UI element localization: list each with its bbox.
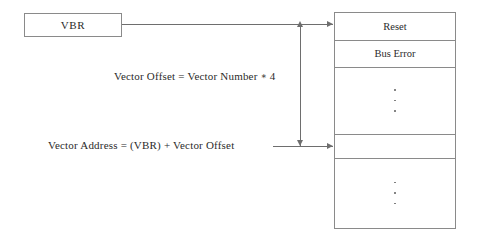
ellipsis-dot-icon — [394, 89, 396, 91]
vector-table-cell-label: Reset — [383, 21, 406, 32]
address-to-table-arrowhead-icon — [327, 143, 333, 149]
vector-offset-equation-text: Vector Offset = Vector Number — [114, 70, 258, 82]
vector-table-row-ellipsis-lower — [335, 158, 455, 228]
ellipsis-dot-icon — [394, 110, 396, 112]
multiply-operator-icon: ∗ — [261, 71, 267, 81]
ellipsis-dot-icon — [394, 100, 396, 102]
offset-span-vertical-line — [300, 24, 301, 146]
vector-table-row-ellipsis-upper — [335, 67, 455, 134]
vector-table-row-bus-error: Bus Error — [335, 40, 455, 67]
vector-table-row-reset: Reset — [335, 13, 455, 40]
vbr-to-table-horizontal-line — [122, 24, 302, 25]
vector-offset-equation-operand: 4 — [270, 70, 276, 82]
vbr-to-table-arrowhead-icon — [327, 21, 333, 27]
vector-address-equation: Vector Address = (VBR) + Vector Offset — [48, 139, 234, 151]
vector-table-row-target-entry — [335, 134, 455, 158]
diagram-canvas: VBR Vector Offset = Vector Number ∗ 4 Ve… — [0, 0, 479, 242]
address-to-table-horizontal-line — [273, 146, 333, 147]
vbr-register-box: VBR — [24, 13, 122, 37]
offset-span-top-arrowhead-icon — [297, 21, 303, 27]
vector-table-cell-label: Bus Error — [374, 48, 415, 59]
ellipsis-dot-icon — [394, 192, 396, 194]
vector-offset-equation: Vector Offset = Vector Number ∗ 4 — [114, 70, 276, 82]
vbr-label: VBR — [25, 14, 121, 36]
exception-vector-table: Reset Bus Error — [334, 12, 456, 229]
ellipsis-dot-icon — [394, 182, 396, 184]
ellipsis-dot-icon — [394, 203, 396, 205]
